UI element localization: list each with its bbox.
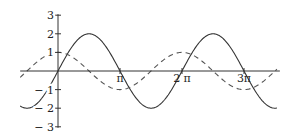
x-tick-label: π <box>116 72 123 85</box>
y-tick-label: 3 <box>47 9 54 22</box>
x-tick-label: 2 π <box>173 72 191 85</box>
y-tick-label: − 3 <box>34 121 54 133</box>
y-tick-label: 1 <box>47 46 54 59</box>
y-tick-label: − 2 <box>34 102 54 115</box>
chart: 321− 1− 2− 3π2 π3π <box>0 0 291 133</box>
y-tick-label: − 1 <box>34 84 54 97</box>
x-tick-label: 3π <box>237 72 251 85</box>
y-tick-label: 2 <box>47 28 54 41</box>
